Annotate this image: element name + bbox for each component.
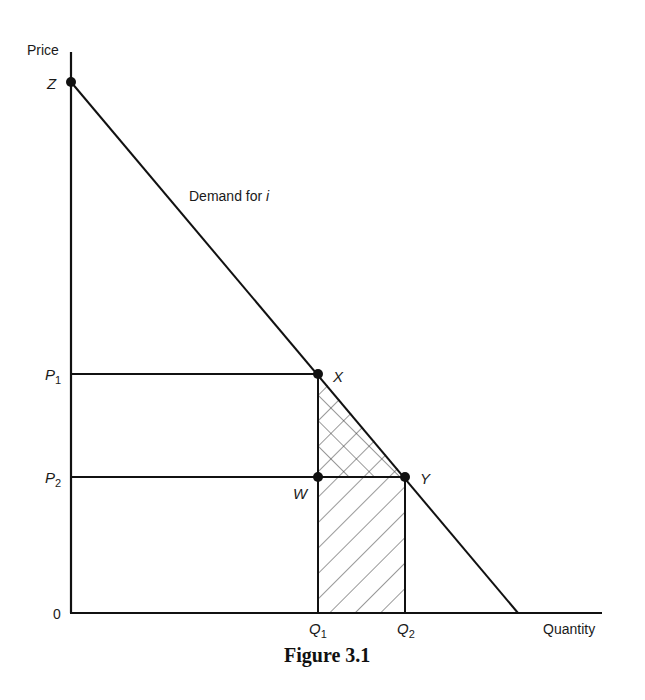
point-x [313, 369, 323, 379]
y-axis-label: Price [27, 42, 59, 58]
label-z: Z [46, 75, 57, 92]
surplus-rectangle [318, 477, 405, 613]
demand-curve [71, 82, 518, 613]
label-q1: Q1 [309, 620, 327, 640]
demand-curve-label: Demand for i [189, 188, 270, 204]
label-q2: Q2 [397, 620, 415, 640]
demand-diagram: Price Quantity 0 Demand for i Z X W Y P1… [0, 0, 645, 700]
label-p2: P2 [45, 469, 61, 489]
figure-caption: Figure 3.1 [284, 644, 370, 667]
point-w [313, 472, 323, 482]
label-x: X [332, 368, 344, 385]
origin-label: 0 [53, 606, 61, 622]
point-y [400, 472, 410, 482]
label-p1: P1 [45, 366, 61, 386]
label-y: Y [420, 470, 431, 487]
demand-label-var: i [266, 188, 270, 204]
point-z [66, 77, 76, 87]
label-w: W [293, 485, 309, 502]
demand-label-text: Demand for [189, 188, 266, 204]
x-axis-label: Quantity [543, 621, 595, 637]
